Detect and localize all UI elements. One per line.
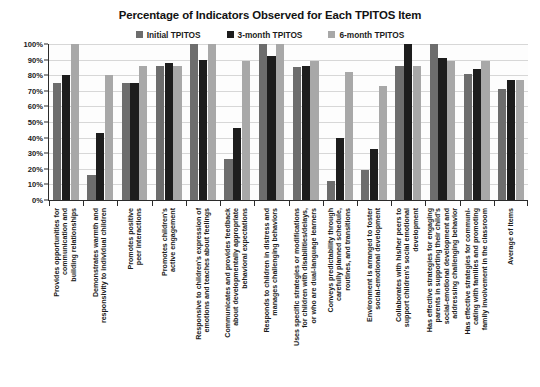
x-axis-label: Average of Items [507, 208, 515, 384]
bar-group [425, 44, 459, 200]
bar-group [152, 44, 186, 200]
x-axis-label-cell: Responds to children in distress and man… [254, 206, 288, 386]
x-axis-label-cell: Has effective strategies for engaging pa… [425, 206, 459, 386]
x-axis-label: Demonstrates warmth and responsivity to … [92, 208, 109, 384]
bar [413, 66, 421, 200]
legend-item: Initial TPITOS [136, 30, 201, 40]
bar-group [357, 44, 391, 200]
x-axis-label: Responsive to children's expression of e… [195, 208, 212, 384]
x-axis-label-cell: Uses specific strategies or modification… [289, 206, 323, 386]
bar [199, 60, 207, 200]
bar [370, 149, 378, 200]
bar [507, 80, 515, 200]
x-axis-label: Has effective strategies for engaging pa… [426, 208, 460, 384]
bar-group [323, 44, 357, 200]
x-axis-label-cell: Has effective strategies for communi- ca… [460, 206, 494, 386]
y-axis-tick-label: 60% [28, 102, 43, 111]
bar [165, 63, 173, 200]
y-axis: 100%90%80%70%60%50%40%30%20%10%0% [14, 44, 48, 200]
bar [71, 44, 79, 200]
x-axis-label: Environment is arranged to foster social… [366, 208, 383, 384]
legend-swatch-icon [136, 31, 143, 38]
legend-swatch-icon [227, 31, 234, 38]
x-axis-label-cell: Provides opportunities for communication… [49, 206, 83, 386]
bar-group [460, 44, 494, 200]
bar-group [220, 44, 254, 200]
bar [336, 138, 344, 200]
bar [53, 83, 61, 200]
y-axis-tick-label: 90% [28, 55, 43, 64]
x-axis-label-cell: Demonstrates warmth and responsivity to … [83, 206, 117, 386]
y-axis-tick-label: 10% [28, 180, 43, 189]
chart-title: Percentage of Indicators Observed for Ea… [0, 9, 540, 21]
bar [139, 66, 147, 200]
x-axis-label-cell: Environment is arranged to foster social… [357, 206, 391, 386]
legend-item: 6-month TPITOS [328, 30, 404, 40]
bar [208, 44, 216, 200]
legend-label: Initial TPITOS [147, 30, 201, 40]
x-axis-label: Provides opportunities for communication… [54, 208, 79, 384]
bar [156, 66, 164, 200]
y-axis-tick-label: 50% [28, 118, 43, 127]
bar-groups [49, 44, 528, 200]
y-axis-tick-label: 20% [28, 164, 43, 173]
x-axis-label-cell: Communicates and provides feedback about… [220, 206, 254, 386]
bar [447, 61, 455, 200]
bar-group [186, 44, 220, 200]
x-axis-label: Promotes positive peer interactions [126, 208, 143, 384]
bar [62, 75, 70, 200]
plot-area [49, 44, 528, 200]
bar [430, 44, 438, 200]
bar [404, 44, 412, 200]
x-axis-label-cell: Promotes children's active engagement [152, 206, 186, 386]
bar [516, 80, 524, 200]
bar-group [83, 44, 117, 200]
x-axis-label: Responds to children in distress and man… [263, 208, 280, 384]
legend-item: 3-month TPITOS [227, 30, 303, 40]
y-axis-tick-label: 100% [24, 40, 43, 49]
x-axis-label: Communicates and provides feedback about… [225, 208, 250, 384]
x-axis-label-cell: Average of Items [494, 206, 528, 386]
y-axis-tick-label: 30% [28, 149, 43, 158]
x-axis-label-cell: Collaborates with his/her peers to suppo… [391, 206, 425, 386]
x-axis-label: Promotes children's active engagement [160, 208, 177, 384]
legend-label: 6-month TPITOS [339, 30, 404, 40]
bar [173, 66, 181, 200]
bar [267, 56, 275, 200]
bar-group [117, 44, 151, 200]
x-axis-label-cell: Promotes positive peer interactions [117, 206, 151, 386]
bar [395, 66, 403, 200]
chart-legend: Initial TPITOS3-month TPITOS6-month TPIT… [0, 28, 540, 41]
plot-wrapper: 100%90%80%70%60%50%40%30%20%10%0% Provid… [0, 44, 540, 387]
bar [327, 181, 335, 200]
x-axis-label: Collaborates with his/her peers to suppo… [396, 208, 421, 384]
bar [224, 159, 232, 200]
bar [130, 83, 138, 200]
y-axis-tick-label: 40% [28, 133, 43, 142]
y-axis-tick-label: 0% [32, 196, 43, 205]
bar [122, 83, 130, 200]
bar [302, 66, 310, 200]
bar [473, 69, 481, 200]
bar [242, 61, 250, 200]
x-axis-label: Uses specific strategies or modification… [293, 208, 318, 384]
bar [87, 175, 95, 200]
legend-label: 3-month TPITOS [238, 30, 303, 40]
y-axis-tick-label: 80% [28, 71, 43, 80]
bar [379, 86, 387, 200]
bar [438, 58, 446, 200]
bar-group [254, 44, 288, 200]
bar [361, 170, 369, 200]
bar [293, 67, 301, 200]
y-axis-tick-label: 70% [28, 86, 43, 95]
x-axis-label-cell: Responsive to children's expression of e… [186, 206, 220, 386]
x-axis-label: Has effective strategies for communi- ca… [464, 208, 489, 384]
bar-group [391, 44, 425, 200]
bar [310, 61, 318, 200]
x-axis-labels: Provides opportunities for communication… [49, 206, 528, 386]
bar [190, 44, 198, 200]
bar [233, 128, 241, 200]
x-axis-label-cell: Conveys predictability through carefully… [323, 206, 357, 386]
bar [498, 89, 506, 200]
bar-group [494, 44, 528, 200]
